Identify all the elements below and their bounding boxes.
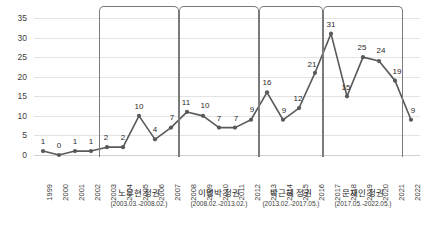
- data-value-label: 2: [121, 134, 125, 142]
- data-point: [361, 55, 365, 59]
- data-value-label: 0: [57, 142, 61, 150]
- data-point: [137, 114, 141, 118]
- data-value-label: 1: [73, 138, 77, 146]
- data-point: [393, 79, 397, 83]
- y-axis-tick-label: 25: [18, 53, 27, 62]
- y-axis-tick-label: 15: [18, 92, 27, 101]
- administration-caption: 문재인 정권(2017.05.-2022.05.): [303, 188, 423, 208]
- data-value-label: 31: [327, 21, 336, 29]
- data-point: [249, 118, 253, 122]
- x-axis-labels: 1999200020012002200320042005200620072008…: [34, 156, 420, 186]
- y-axis-tick-label: 20: [18, 72, 27, 81]
- y-axis-labels: 05101520253035: [0, 18, 30, 155]
- data-value-label: 7: [217, 115, 221, 123]
- chart-container: 05101520253035 1011221047111077916912213…: [0, 0, 428, 230]
- data-point: [265, 90, 269, 94]
- data-value-label: 9: [282, 107, 286, 115]
- y-axis-tick-label: 0: [22, 151, 27, 160]
- data-value-label: 10: [135, 103, 144, 111]
- data-value-label: 10: [201, 102, 210, 110]
- administration-name: 문재인 정권: [303, 188, 423, 199]
- data-point: [105, 145, 109, 149]
- plot-area: 10112210471110779169122131152524199: [34, 18, 420, 155]
- data-value-label: 1: [89, 138, 93, 146]
- data-value-label: 21: [308, 61, 317, 69]
- data-point: [89, 149, 93, 153]
- data-point: [329, 32, 333, 36]
- line-series: [34, 18, 420, 155]
- y-axis-tick-label: 35: [18, 14, 27, 23]
- data-value-label: 24: [377, 47, 386, 55]
- data-point: [313, 71, 317, 75]
- data-value-label: 2: [104, 134, 108, 142]
- data-value-label: 9: [411, 107, 415, 115]
- data-point: [185, 110, 189, 114]
- data-point: [41, 149, 45, 153]
- data-point: [409, 118, 413, 122]
- data-value-label: 7: [170, 114, 174, 122]
- data-point: [297, 106, 301, 110]
- data-point: [153, 137, 157, 141]
- data-point: [281, 118, 285, 122]
- data-value-label: 16: [263, 79, 272, 87]
- administration-period: (2017.05.-2022.05.): [303, 200, 423, 208]
- data-value-label: 1: [41, 138, 45, 146]
- data-value-label: 11: [182, 99, 190, 107]
- data-point: [377, 59, 381, 63]
- data-point: [169, 126, 173, 130]
- data-value-label: 19: [393, 68, 402, 76]
- data-point: [73, 149, 77, 153]
- y-axis-tick-label: 10: [18, 112, 27, 121]
- y-axis-tick-label: 5: [22, 131, 27, 140]
- data-point: [345, 94, 349, 98]
- y-axis-tick-label: 30: [18, 33, 27, 42]
- data-point: [121, 145, 125, 149]
- data-point: [217, 126, 221, 130]
- data-value-label: 12: [294, 95, 303, 103]
- administration-captions: 노무현 정권(2003.03.-2008.02.)이명박 정권(2008.02.…: [0, 188, 428, 228]
- data-value-label: 9: [250, 106, 254, 114]
- data-point: [233, 126, 237, 130]
- data-value-label: 4: [153, 126, 157, 134]
- data-value-label: 25: [358, 44, 367, 52]
- data-value-label: 15: [342, 84, 351, 92]
- data-value-label: 7: [234, 115, 238, 123]
- data-point: [201, 114, 205, 118]
- series-line: [43, 34, 411, 155]
